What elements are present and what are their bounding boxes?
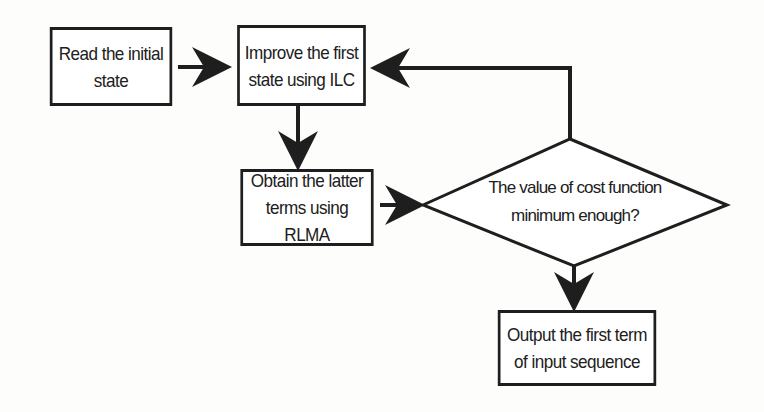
decision-label: The value of cost function minimum enoug… bbox=[470, 174, 680, 230]
node-read-initial-state: Read the initial state bbox=[50, 27, 172, 106]
node-label: Obtain the latter terms using RLMA bbox=[243, 167, 371, 248]
node-label: Output the first term of input sequence bbox=[507, 321, 647, 375]
node-improve-first-state: Improve the first state using ILC bbox=[237, 25, 366, 106]
node-obtain-latter-terms: Obtain the latter terms using RLMA bbox=[240, 169, 373, 246]
edge-decision-to-improve bbox=[374, 68, 570, 139]
node-label: Improve the first state using ILC bbox=[245, 39, 358, 93]
node-label: Read the initial state bbox=[59, 40, 163, 94]
node-output-first-term: Output the first term of input sequence bbox=[498, 310, 656, 386]
